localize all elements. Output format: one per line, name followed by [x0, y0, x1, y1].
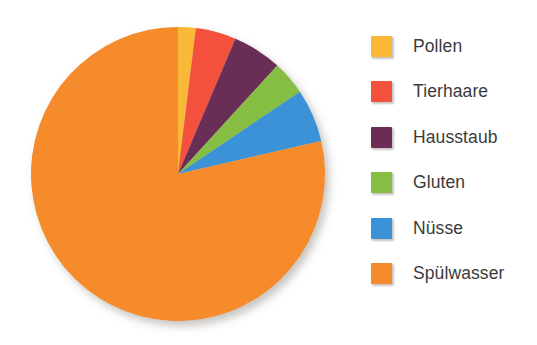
pie-chart-svg	[0, 0, 360, 345]
pie-chart-area	[0, 0, 360, 345]
legend-swatch-icon	[371, 127, 392, 148]
legend-item-label: Gluten	[413, 172, 465, 193]
legend-item[interactable]: Nüsse	[371, 215, 537, 241]
pie-chart-figure: PollenTierhaareHausstaubGlutenNüsseSpülw…	[0, 0, 537, 345]
legend-item[interactable]: Gluten	[371, 170, 537, 196]
legend-item[interactable]: Hausstaub	[371, 124, 537, 150]
legend-item-label: Nüsse	[413, 218, 463, 239]
legend-item-label: Spülwasser	[413, 263, 504, 284]
legend-item[interactable]: Pollen	[371, 33, 537, 59]
legend-item[interactable]: Spülwasser	[371, 261, 537, 287]
pie-slice-group	[31, 27, 325, 321]
legend-swatch-icon	[371, 81, 392, 102]
legend-swatch-icon	[371, 263, 392, 284]
legend-item-label: Pollen	[413, 36, 462, 57]
legend-swatch-icon	[371, 218, 392, 239]
legend-item-label: Hausstaub	[413, 127, 498, 148]
legend-item-label: Tierhaare	[413, 81, 488, 102]
legend-swatch-icon	[371, 172, 392, 193]
legend-item[interactable]: Tierhaare	[371, 79, 537, 105]
chart-legend: PollenTierhaareHausstaubGlutenNüsseSpülw…	[371, 33, 537, 323]
legend-swatch-icon	[371, 36, 392, 57]
